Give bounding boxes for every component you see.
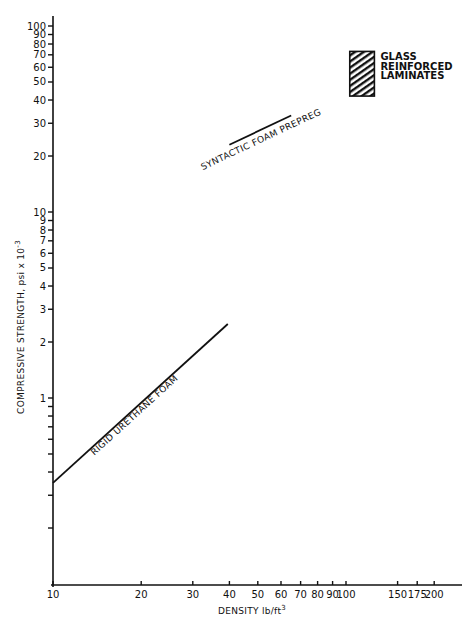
y-tick-label: 80	[33, 39, 46, 50]
y-tick-label: 20	[33, 151, 46, 162]
region-layer: GLASSREINFORCEDLAMINATES	[350, 51, 453, 96]
y-tick-label: 2	[40, 337, 46, 348]
y-tick-label: 30	[33, 118, 46, 129]
x-tick-label: 50	[251, 589, 264, 600]
y-tick-label: 40	[33, 95, 46, 106]
x-axis-title: DENSITY lb/ft3	[218, 604, 286, 616]
x-tick-label: 200	[425, 589, 444, 600]
x-tick-label: 80	[311, 589, 324, 600]
x-tick-label: 20	[135, 589, 148, 600]
y-tick-label: 60	[33, 62, 46, 73]
y-tick-label: 70	[33, 49, 46, 60]
y-tick-label: 50	[33, 76, 46, 87]
x-tick-label: 60	[275, 589, 288, 600]
region-label-line: LAMINATES	[380, 70, 444, 81]
region-hatched-box	[350, 51, 375, 96]
y-tick-label: 5	[40, 262, 46, 273]
y-tick-label: 4	[40, 281, 46, 292]
y-tick-label: 8	[40, 225, 46, 236]
x-tick-label: 40	[223, 589, 236, 600]
series-layer: RIGID URETHANE FOAMSYNTACTIC FOAM PREPRE…	[53, 107, 323, 483]
y-axis: 123456789102030405060708090100	[27, 16, 53, 587]
series-label-0: RIGID URETHANE FOAM	[89, 373, 180, 457]
x-axis: 102030405060708090100150175200	[47, 581, 462, 600]
y-tick-label: 1	[40, 393, 46, 404]
y-tick-label: 3	[40, 304, 46, 315]
x-tick-label: 10	[47, 589, 60, 600]
y-tick-label: 10	[33, 207, 46, 218]
chart: 123456789102030405060708090100 102030405…	[0, 0, 472, 624]
y-tick-label: 7	[40, 235, 46, 246]
x-tick-label: 70	[294, 589, 307, 600]
y-tick-label: 100	[27, 21, 46, 32]
y-axis-title: COMPRESSIVE STRENGTH, psi x 10-3	[14, 240, 26, 414]
y-tick-label: 6	[40, 248, 46, 259]
x-tick-label: 150	[388, 589, 407, 600]
x-tick-label: 100	[336, 589, 355, 600]
x-tick-label: 30	[186, 589, 199, 600]
series-label-1: SYNTACTIC FOAM PREPREG	[199, 107, 322, 172]
